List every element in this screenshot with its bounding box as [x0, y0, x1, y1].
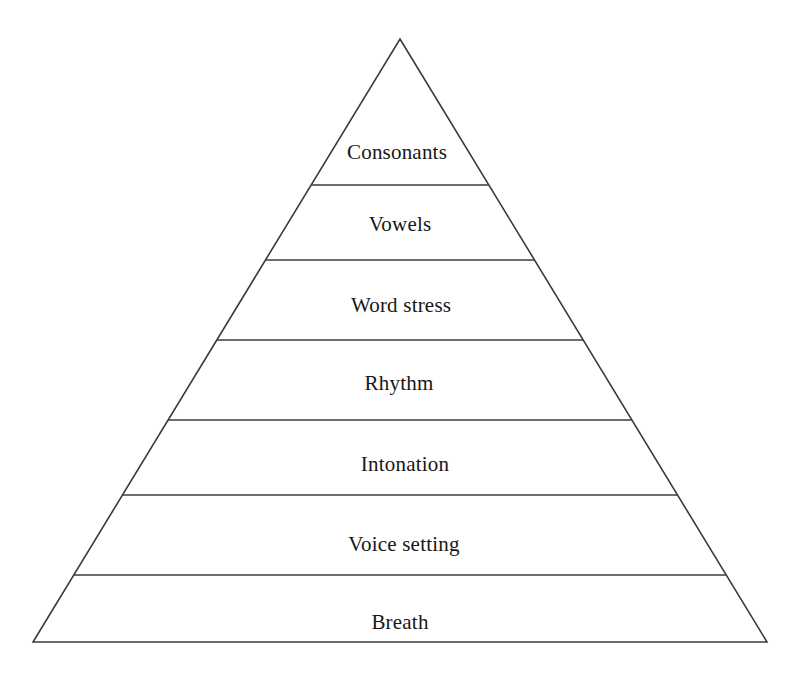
pyramid-shape: [0, 0, 800, 679]
pronunciation-pyramid-diagram: ConsonantsVowelsWord stressRhythmIntonat…: [0, 0, 800, 679]
